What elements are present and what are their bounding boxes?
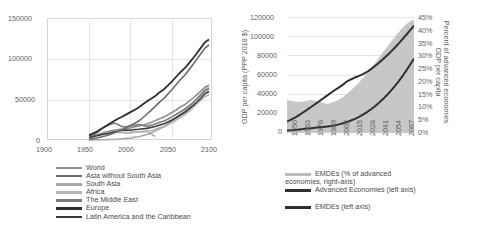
legend-swatch-world — [56, 167, 82, 169]
left-xtick-1950: 1950 — [77, 146, 93, 153]
right-ytick-right-10: 10% — [418, 103, 432, 110]
right-xtick-1950: 1950 — [291, 120, 298, 136]
right-xtick-1989: 1989 — [330, 120, 337, 136]
right-ytick-right-5: 5% — [418, 116, 428, 123]
series-line-europe — [89, 40, 209, 136]
right-yaxis-title-right: Percent of advanced economies GDP per ca… — [439, 12, 450, 132]
legend-label-advanced-economies: Advanced Economies (left axis) — [315, 186, 416, 194]
right-ytick-120000: 120000 — [250, 14, 274, 21]
right-plot-area — [287, 17, 414, 132]
right-ytick-right-25: 25% — [418, 65, 432, 72]
legend-item-emdes-left-axis[interactable]: EMDEs (left axis) — [285, 203, 475, 211]
legend-item-south-asia[interactable]: South Asia — [56, 180, 236, 188]
left-xtick-2050: 2050 — [160, 146, 176, 153]
right-ytick-right-15: 15% — [418, 91, 432, 98]
right-ytick-right-0: 0% — [418, 129, 428, 136]
legend-label-emdes-left-axis: EMDEs (left axis) — [315, 203, 371, 211]
legend-swatch-asia-without-south-asia — [56, 175, 82, 177]
right-xtick-1976: 1976 — [317, 120, 324, 136]
right-ytick-0: 0 — [278, 128, 282, 135]
series-area-emde-share — [287, 19, 414, 132]
left-chart-legend: World Asia without South Asia South Asia… — [56, 164, 236, 221]
right-ytick-right-45: 45% — [418, 14, 432, 21]
right-chart-panel: GDP per capita (PPP 2018 $) Percent of a… — [232, 0, 479, 235]
legend-item-the-middle-east[interactable]: The Middle East — [56, 196, 236, 204]
series-line-world — [89, 85, 209, 137]
right-xtick-1963: 1963 — [304, 120, 311, 136]
right-yaxis-title-right-text: Percent of advanced economies GDP per ca… — [434, 12, 450, 132]
left-series-lines — [48, 19, 213, 141]
right-ytick-100000: 100000 — [250, 33, 274, 40]
legend-label-latin-america-and-the-caribbean: Latin America and the Caribbean — [86, 213, 191, 221]
legend-swatch-europe — [56, 207, 82, 209]
right-xtick-2067: 2067 — [408, 120, 415, 136]
left-xtick-2000: 2000 — [118, 146, 134, 153]
legend-swatch-africa — [56, 191, 82, 193]
right-series-graphics — [287, 17, 414, 132]
legend-item-asia-without-south-asia[interactable]: Asia without South Asia — [56, 172, 236, 180]
left-xtick-1900: 1900 — [36, 146, 52, 153]
right-ytick-60000: 60000 — [257, 71, 277, 78]
legend-swatch-emdes-left-axis — [285, 206, 311, 209]
left-chart-panel: 150000 100000 50000 0 — [0, 0, 240, 235]
legend-item-latin-america-and-the-caribbean[interactable]: Latin America and the Caribbean — [56, 213, 236, 221]
legend-swatch-emde-share — [285, 173, 311, 177]
right-xtick-2054: 2054 — [395, 120, 402, 136]
right-xtick-2015: 2015 — [356, 120, 363, 136]
legend-swatch-the-middle-east — [56, 199, 82, 201]
legend-item-africa[interactable]: Africa — [56, 188, 236, 196]
left-ytick-0: 0 — [36, 137, 40, 144]
legend-swatch-latin-america-and-the-caribbean — [56, 216, 82, 218]
left-ytick-50000: 50000 — [15, 96, 35, 103]
right-xtick-2028: 2028 — [369, 120, 376, 136]
left-ytick-100000: 100000 — [8, 55, 32, 62]
right-ytick-20000: 20000 — [257, 109, 277, 116]
right-ytick-right-30: 30% — [418, 52, 432, 59]
right-xtick-2041: 2041 — [382, 120, 389, 136]
left-plot-area — [47, 18, 212, 140]
right-chart-legend: EMDEs (% of advanced economies, right-ax… — [285, 170, 475, 211]
legend-item-emde-share[interactable]: EMDEs (% of advanced economies, right-ax… — [285, 170, 475, 186]
legend-swatch-south-asia — [56, 183, 82, 185]
right-ytick-80000: 80000 — [257, 52, 277, 59]
right-ytick-right-35: 35% — [418, 40, 432, 47]
right-ytick-right-20: 20% — [418, 78, 432, 85]
right-xtick-2002: 2002 — [343, 120, 350, 136]
legend-item-advanced-economies[interactable]: Advanced Economies (left axis) — [285, 186, 475, 194]
right-ytick-40000: 40000 — [257, 90, 277, 97]
left-ytick-150000: 150000 — [8, 15, 32, 22]
right-yaxis-title-left: GDP per capita (PPP 2018 $) — [241, 30, 248, 124]
legend-swatch-advanced-economies — [285, 189, 311, 192]
figure-root: 150000 100000 50000 0 — [0, 0, 479, 235]
left-xtick-2100: 2100 — [201, 146, 217, 153]
right-ytick-right-40: 40% — [418, 27, 432, 34]
